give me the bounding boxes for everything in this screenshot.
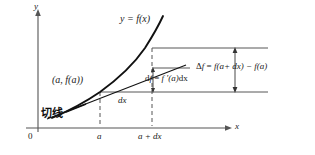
differential-argument: (a)	[168, 73, 179, 83]
origin-label: 0	[28, 132, 33, 141]
tick-label-a: a	[97, 132, 102, 141]
differential-label: df = f ′(a)dx	[145, 74, 188, 83]
x-axis-arrowhead	[225, 125, 232, 130]
point-label: (a, f(a))	[52, 75, 83, 85]
y-axis-label: y	[34, 2, 38, 11]
increment-body: f(a+ dx) − f(a)	[214, 61, 267, 71]
curve-label: y = f(x)	[120, 14, 150, 24]
x-axis-label: x	[235, 122, 239, 131]
tangent-legend-stroke	[66, 104, 86, 112]
dx-label: dx	[118, 96, 127, 105]
increment-equals: =	[204, 61, 214, 71]
function-curve	[52, 16, 163, 118]
differential-d: d	[145, 73, 150, 83]
tangent-line-label: 切线	[41, 108, 63, 119]
differential-equals: =	[152, 73, 162, 83]
differential-dx: dx	[179, 73, 188, 83]
increment-label: Δf = f(a+ dx) − f(a)	[196, 62, 267, 71]
differential-diagram: y x 0 a a + dx y = f(x) (a, f(a)) 切线 dx …	[0, 0, 315, 155]
tick-label-a-plus-dx: a + dx	[138, 132, 162, 141]
